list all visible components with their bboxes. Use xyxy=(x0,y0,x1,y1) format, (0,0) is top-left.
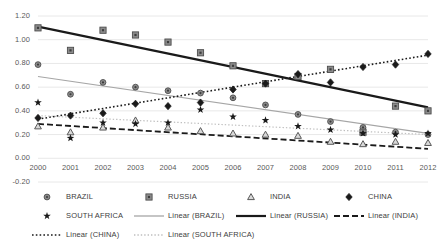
legend-item-label: Linear (RUSSIA) xyxy=(270,211,328,220)
legend-item-label: Linear (SOUTH AFRICA) xyxy=(168,230,255,239)
legend-item[interactable]: BRAZIL xyxy=(28,188,93,205)
data-point xyxy=(197,106,205,113)
data-points xyxy=(34,25,432,147)
legend-item-label: RUSSIA xyxy=(168,192,197,201)
data-point xyxy=(100,80,106,86)
data-point xyxy=(198,90,204,96)
legend-item[interactable]: Linear (SOUTH AFRICA) xyxy=(130,226,255,243)
data-point xyxy=(230,130,237,136)
x-axis-tick-label: 2000 xyxy=(23,163,53,172)
x-axis-tick-label: 2004 xyxy=(153,163,183,172)
line-dotted-icon xyxy=(28,226,66,243)
trendline xyxy=(38,76,428,133)
data-point xyxy=(100,27,106,33)
data-point xyxy=(132,100,138,107)
y-axis-tick-label: -0.20 xyxy=(2,177,30,186)
x-axis-tick-label: 2008 xyxy=(283,163,313,172)
x-axis-tick-label: 2002 xyxy=(88,163,118,172)
legend-item-label: INDIA xyxy=(270,192,291,201)
y-axis-tick-label: 0.60 xyxy=(2,82,30,91)
legend-item[interactable]: Linear (RUSSIA) xyxy=(232,207,328,224)
legend-item-label: Linear (INDIA) xyxy=(368,211,418,220)
data-point xyxy=(392,61,398,68)
line-dashed-icon xyxy=(330,207,368,224)
legend-row: Linear (CHINA)Linear (SOUTH AFRICA) xyxy=(0,226,435,243)
legend-item[interactable]: INDIA xyxy=(232,188,291,205)
data-point xyxy=(392,138,399,144)
data-point xyxy=(197,128,204,134)
y-axis-tick-label: 0.40 xyxy=(2,106,30,115)
legend-row: BRAZILRUSSIAINDIACHINA xyxy=(0,188,435,205)
x-axis-tick-label: 2005 xyxy=(186,163,216,172)
data-point xyxy=(360,141,367,147)
data-point xyxy=(328,119,334,125)
data-point xyxy=(35,25,41,31)
y-axis-tick-label: 1.20 xyxy=(2,11,30,20)
data-point xyxy=(165,103,171,110)
legend-item-label: BRAZIL xyxy=(66,192,93,201)
x-axis-tick-label: 2003 xyxy=(121,163,151,172)
data-point xyxy=(132,32,138,38)
legend-item[interactable]: Linear (CHINA) xyxy=(28,226,119,243)
data-point xyxy=(425,50,431,57)
legend-item-label: SOUTH AFRICA xyxy=(66,211,123,220)
data-point xyxy=(262,116,270,123)
legend-item[interactable]: Linear (BRAZIL) xyxy=(130,207,224,224)
data-point xyxy=(197,50,203,56)
data-point xyxy=(68,91,74,97)
square-marker-icon xyxy=(130,188,168,205)
data-point xyxy=(67,47,73,53)
line-solid-bold-icon xyxy=(232,207,270,224)
legend-item-label: Linear (BRAZIL) xyxy=(168,211,224,220)
data-point xyxy=(35,62,41,68)
y-axis-tick-label: 0.00 xyxy=(2,153,30,162)
line-dotted-light-icon xyxy=(130,226,168,243)
chart-svg xyxy=(0,0,435,186)
legend-row: SOUTH AFRICALinear (BRAZIL)Linear (RUSSI… xyxy=(0,207,435,224)
data-point xyxy=(229,113,237,120)
legend-item-label: CHINA xyxy=(368,192,392,201)
data-point xyxy=(230,95,236,101)
y-axis-tick-label: 0.20 xyxy=(2,130,30,139)
y-axis-tick-label: 0.80 xyxy=(2,58,30,67)
legend-item[interactable]: SOUTH AFRICA xyxy=(28,207,123,224)
data-point xyxy=(425,139,432,145)
x-axis-tick-label: 2009 xyxy=(316,163,346,172)
plot-area: -0.200.000.200.400.600.801.001.20 200020… xyxy=(0,0,435,186)
data-point xyxy=(360,63,366,70)
legend-item-label: Linear (CHINA) xyxy=(66,230,119,239)
data-point xyxy=(165,88,171,94)
data-point xyxy=(425,108,431,114)
x-axis-tick-label: 2012 xyxy=(413,163,441,172)
data-point xyxy=(327,138,334,144)
line-solid-light-icon xyxy=(130,207,168,224)
circle-marker-icon xyxy=(28,188,66,205)
data-point xyxy=(100,124,107,130)
legend-item[interactable]: RUSSIA xyxy=(130,188,197,205)
chart-legend: BRAZILRUSSIAINDIACHINASOUTH AFRICALinear… xyxy=(0,188,435,246)
legend-item[interactable]: CHINA xyxy=(330,188,392,205)
data-point xyxy=(34,99,42,106)
data-point xyxy=(263,102,269,108)
data-point xyxy=(67,129,74,135)
x-axis-tick-label: 2011 xyxy=(381,163,411,172)
triangle-marker-icon xyxy=(232,188,270,205)
x-axis-tick-label: 2006 xyxy=(218,163,248,172)
data-point xyxy=(165,124,172,130)
data-point xyxy=(165,39,171,45)
y-axis-tick-label: 1.00 xyxy=(2,35,30,44)
legend-item[interactable]: Linear (INDIA) xyxy=(330,207,418,224)
star-marker-icon xyxy=(28,207,66,224)
data-point xyxy=(133,84,139,90)
x-axis-tick-label: 2007 xyxy=(251,163,281,172)
diamond-marker-icon xyxy=(330,188,368,205)
data-point xyxy=(327,66,333,72)
data-point xyxy=(327,79,333,86)
data-point xyxy=(295,112,301,118)
x-axis-tick-label: 2001 xyxy=(56,163,86,172)
data-point xyxy=(392,103,398,109)
data-point xyxy=(327,126,335,133)
data-point xyxy=(230,63,236,69)
data-point xyxy=(295,132,302,138)
